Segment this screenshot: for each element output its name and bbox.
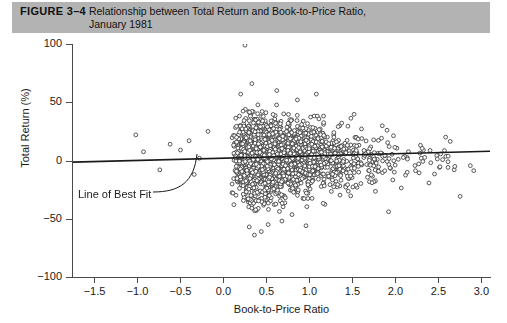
- x-tick-mark: [94, 277, 95, 283]
- y-axis-title: Total Return (%): [19, 73, 31, 183]
- figure-title-line-2: January 1981: [20, 18, 484, 31]
- x-tick-mark: [309, 277, 310, 283]
- x-tick-label: 1.0: [286, 285, 332, 297]
- x-axis-spine: [72, 277, 491, 278]
- x-tick-label: 3.0: [458, 285, 504, 297]
- x-tick-mark: [266, 277, 267, 283]
- y-tick-mark: [66, 219, 73, 220]
- y-tick-mark: [66, 102, 73, 103]
- x-tick-mark: [481, 277, 482, 283]
- y-tick-label: −50: [22, 212, 62, 224]
- figure-caption-line-1: FIGURE 3–4 Relationship between Total Re…: [20, 5, 484, 18]
- figure-caption-band: FIGURE 3–4 Relationship between Total Re…: [12, 2, 490, 33]
- y-tick-label: 100: [22, 37, 62, 49]
- x-tick-label: −1.5: [71, 285, 117, 297]
- x-tick-label: −0.5: [157, 285, 203, 297]
- figure-title-line-1: Relationship between Total Return and Bo…: [89, 5, 366, 17]
- x-tick-label: −1.0: [114, 285, 160, 297]
- y-tick-mark: [66, 161, 73, 162]
- x-tick-label: 0.5: [243, 285, 289, 297]
- x-tick-mark: [395, 277, 396, 283]
- y-tick-label: −100: [22, 270, 62, 282]
- y-tick-mark: [66, 44, 73, 45]
- x-tick-label: 1.5: [329, 285, 375, 297]
- scatter-points-canvas: [73, 44, 490, 277]
- x-tick-label: 2.5: [415, 285, 461, 297]
- x-tick-mark: [352, 277, 353, 283]
- x-tick-mark: [180, 277, 181, 283]
- x-tick-mark: [137, 277, 138, 283]
- best-fit-annotation-label: Line of Best Fit: [78, 188, 151, 200]
- x-tick-mark: [438, 277, 439, 283]
- figure-number-label: FIGURE 3–4: [20, 5, 86, 17]
- x-tick-mark: [223, 277, 224, 283]
- scatter-plot-region: [73, 44, 490, 277]
- x-tick-label: 0.0: [200, 285, 246, 297]
- x-axis-title: Book-to-Price Ratio: [73, 303, 490, 315]
- y-tick-mark: [66, 277, 73, 278]
- x-tick-label: 2.0: [372, 285, 418, 297]
